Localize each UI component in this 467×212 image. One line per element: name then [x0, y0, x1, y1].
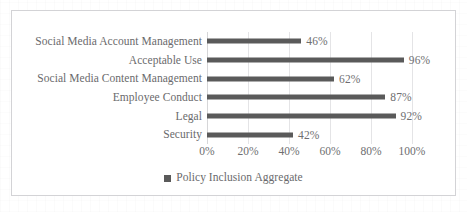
- bar: [207, 57, 404, 62]
- bar-value-label: 87%: [390, 91, 411, 103]
- category-label: Social Media Account Management: [35, 32, 202, 51]
- bar-value-label: 42%: [298, 129, 319, 141]
- bar-row: 87%: [207, 88, 412, 107]
- bar-row: 96%: [207, 51, 412, 70]
- chart-legend: Policy Inclusion Aggregate: [12, 171, 455, 183]
- bar: [207, 76, 334, 81]
- chart-container: Social Media Account ManagementAcceptabl…: [11, 10, 456, 196]
- bar: [207, 39, 301, 44]
- axis-tick-label: 80%: [360, 145, 381, 157]
- bar: [207, 95, 385, 100]
- axis-tick-label: 40%: [278, 145, 299, 157]
- bar-row: 92%: [207, 107, 412, 126]
- category-label: Employee Conduct: [113, 88, 202, 107]
- category-label: Social Media Content Management: [37, 69, 202, 88]
- bar: [207, 113, 396, 118]
- plot-area: 46%96%62%87%92%42%: [207, 32, 412, 144]
- axis-tick-label: 0%: [199, 145, 214, 157]
- axis-tick-label: 100%: [399, 145, 426, 157]
- bar-value-label: 92%: [401, 110, 422, 122]
- legend-label: Policy Inclusion Aggregate: [176, 171, 303, 183]
- bar-row: 62%: [207, 69, 412, 88]
- axis-tick-label: 60%: [319, 145, 340, 157]
- axis-tick-label: 20%: [237, 145, 258, 157]
- value-axis-labels: 0%20%40%60%80%100%: [207, 145, 412, 161]
- bar-value-label: 46%: [306, 35, 327, 47]
- bar-value-label: 62%: [339, 73, 360, 85]
- category-label: Acceptable Use: [129, 51, 202, 70]
- bar-row: 42%: [207, 125, 412, 144]
- bar-row: 46%: [207, 32, 412, 51]
- category-axis-labels: Social Media Account ManagementAcceptabl…: [20, 32, 202, 144]
- category-label: Legal: [176, 107, 202, 126]
- bar: [207, 132, 293, 137]
- legend-square-marker: [164, 175, 171, 182]
- category-label: Security: [163, 125, 202, 144]
- bar-value-label: 96%: [409, 54, 430, 66]
- gridline: [412, 32, 413, 144]
